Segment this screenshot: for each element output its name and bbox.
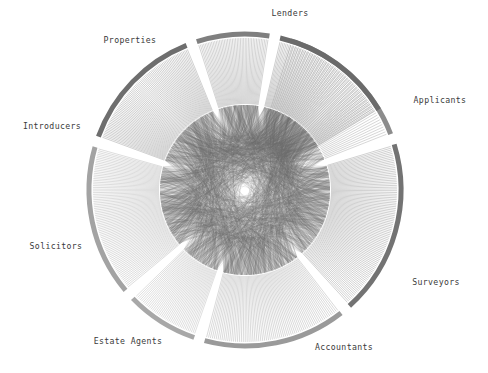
group-label-lenders: Lenders	[272, 8, 309, 18]
group-label-solicitors: Solicitors	[30, 241, 83, 251]
group-label-introducers: Introducers	[23, 121, 81, 131]
group-label-surveyors: Surveyors	[412, 277, 460, 287]
edge-bundling-canvas: LendersApplicantsSurveyorsAccountantsEst…	[0, 0, 488, 373]
group-label-applicants: Applicants	[414, 95, 467, 105]
group-label-estate-agents: Estate Agents	[94, 336, 163, 346]
group-label-accountants: Accountants	[315, 342, 373, 352]
edge-bundling-figure: LendersApplicantsSurveyorsAccountantsEst…	[0, 0, 488, 373]
group-label-properties: Properties	[104, 35, 157, 45]
